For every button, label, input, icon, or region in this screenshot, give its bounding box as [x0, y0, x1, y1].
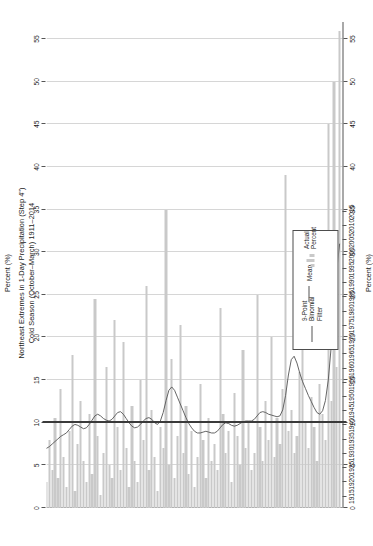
y-axis-label-bottom: 55: [348, 35, 355, 43]
x-axis-label: 2005: [347, 233, 354, 248]
bottom-axis-title: Percent (%): [363, 0, 372, 546]
y-axis-label-bottom: 10: [348, 419, 355, 427]
legend-line-icon: [308, 286, 309, 302]
mean-line: [42, 421, 346, 422]
x-axis-tick: [342, 382, 346, 383]
x-axis-tick: [342, 311, 346, 312]
x-axis-label: 1920: [347, 475, 354, 490]
x-axis-tick: [342, 353, 346, 354]
x-axis-tick: [342, 496, 346, 497]
y-axis-label-bottom: 25: [348, 291, 355, 299]
y-axis-tick: [41, 166, 45, 167]
x-axis-tick: [342, 296, 346, 297]
y-axis-tick: [41, 209, 45, 210]
y-axis-label: 10: [32, 419, 39, 427]
y-axis-tick: [41, 336, 45, 337]
x-axis-tick: [342, 453, 346, 454]
y-axis-tick: [41, 251, 45, 252]
x-axis-label: 1945: [347, 404, 354, 419]
y-axis-label: 15: [32, 376, 39, 384]
y-axis-label-bottom: 20: [348, 334, 355, 342]
legend-bar-icon: [305, 254, 314, 267]
x-axis-tick: [342, 481, 346, 482]
y-axis-label: 40: [32, 163, 39, 171]
x-axis-tick: [342, 239, 346, 240]
y-axis-tick-bottom: [343, 123, 347, 124]
x-axis-label: 2010: [347, 219, 354, 234]
y-axis-tick-bottom: [343, 507, 347, 508]
x-axis-tick: [342, 396, 346, 397]
legend-item-mean: Mean: [305, 265, 312, 302]
x-axis-label: 1930: [347, 447, 354, 462]
x-axis-tick: [342, 268, 346, 269]
x-axis-label: 1950: [347, 390, 354, 405]
y-axis-tick-bottom: [343, 251, 347, 252]
x-axis-tick: [342, 424, 346, 425]
y-axis-label: 5: [32, 463, 39, 467]
y-axis-tick: [41, 294, 45, 295]
y-axis-tick: [41, 38, 45, 39]
y-axis-label-bottom: 45: [348, 121, 355, 129]
x-axis-label: 1935: [347, 432, 354, 447]
x-axis-tick: [342, 325, 346, 326]
legend-item-actual-percent: Actual Percent: [302, 227, 317, 267]
y-axis-tick-bottom: [343, 166, 347, 167]
x-axis-tick: [342, 282, 346, 283]
x-axis-tick: [342, 339, 346, 340]
chart-legend: 9-Point Binomial Filter Mean Actual Perc…: [292, 230, 338, 350]
x-axis-tick: [342, 211, 346, 212]
chart-figure: Percent (%) Northeast Extremes in 1-Day …: [0, 0, 373, 546]
y-axis-label-bottom: 0: [348, 506, 355, 510]
chart-title-line-1: Northeast Extremes in 1-Day Precipitatio…: [16, 0, 26, 546]
top-axis-title: Percent (%): [2, 0, 11, 546]
y-axis-label: 35: [32, 206, 39, 214]
x-axis-tick: [342, 439, 346, 440]
x-axis-tick: [342, 368, 346, 369]
y-axis-tick-bottom: [343, 464, 347, 465]
y-axis-tick-bottom: [343, 209, 347, 210]
y-axis-tick: [41, 464, 45, 465]
x-axis-label: 1960: [347, 361, 354, 376]
y-axis-label-bottom: 5: [348, 463, 355, 467]
y-axis-label-bottom: 50: [348, 78, 355, 86]
y-axis-tick-bottom: [343, 81, 347, 82]
x-axis-label: 1980: [347, 304, 354, 319]
y-axis-label: 45: [32, 121, 39, 129]
x-axis-tick: [342, 254, 346, 255]
y-axis-tick-bottom: [343, 336, 347, 337]
x-axis-label: 1990: [347, 276, 354, 291]
y-axis-label: 0: [32, 506, 39, 510]
legend-label-actual-percent: Actual Percent: [302, 227, 317, 249]
y-axis-label-bottom: 30: [348, 248, 355, 256]
x-axis-label: 1975: [347, 319, 354, 334]
y-axis-tick-bottom: [343, 294, 347, 295]
legend-line-icon: [311, 326, 312, 342]
y-axis-label: 20: [32, 334, 39, 342]
y-axis-tick: [41, 507, 45, 508]
y-axis-tick: [41, 379, 45, 380]
y-axis-label: 50: [32, 78, 39, 86]
y-axis-label: 30: [32, 248, 39, 256]
x-axis-label: 1965: [347, 347, 354, 362]
y-axis-label-bottom: 40: [348, 163, 355, 171]
y-axis-tick-bottom: [343, 379, 347, 380]
x-axis-label: 1915: [347, 489, 354, 504]
y-axis-label: 55: [32, 35, 39, 43]
y-axis-tick-bottom: [343, 38, 347, 39]
y-axis-tick: [41, 123, 45, 124]
x-axis-tick: [342, 467, 346, 468]
y-axis-label-bottom: 35: [348, 206, 355, 214]
x-axis-tick: [342, 225, 346, 226]
rotated-figure-container: Percent (%) Northeast Extremes in 1-Day …: [0, 0, 373, 546]
legend-item-binomial-filter: 9-Point Binomial Filter: [300, 296, 322, 342]
y-axis-label-bottom: 15: [348, 376, 355, 384]
legend-label-mean: Mean: [305, 265, 312, 281]
y-axis-label: 25: [32, 291, 39, 299]
x-axis-tick: [342, 410, 346, 411]
y-axis-tick: [41, 81, 45, 82]
x-axis-label: 1995: [347, 262, 354, 277]
